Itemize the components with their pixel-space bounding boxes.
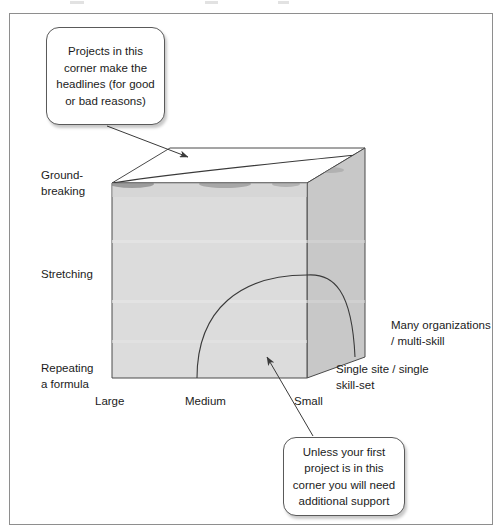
axis-label-depth-far: Many organizations / multi-skill: [391, 318, 491, 349]
axis-label-vertical-bottom: Repeating a formula: [41, 361, 93, 392]
callout-top-bubble[interactable]: Projects in this corner make the headlin…: [46, 27, 165, 125]
callout-top-leader-line: [107, 126, 188, 157]
callout-top-text: Projects in this corner make the headlin…: [55, 43, 156, 109]
axis-label-vertical-middle: Stretching: [41, 267, 93, 283]
callout-bottom-text: Unless your first project is in this cor…: [292, 444, 396, 510]
cube-front-face: [112, 183, 307, 378]
cube-right-face: [307, 148, 365, 378]
cube-3d: [110, 148, 367, 378]
figure-root: Projects in this corner make the headlin…: [0, 0, 503, 532]
axis-label-horizontal-middle: Medium: [185, 394, 226, 410]
callout-bottom-bubble[interactable]: Unless your first project is in this cor…: [283, 437, 405, 516]
axis-label-vertical-top: Ground- breaking: [41, 168, 85, 199]
axis-label-horizontal-left: Large: [95, 394, 124, 410]
axis-label-horizontal-right: Small: [294, 394, 323, 410]
axis-label-depth-near: Single site / single skill-set: [336, 362, 429, 393]
